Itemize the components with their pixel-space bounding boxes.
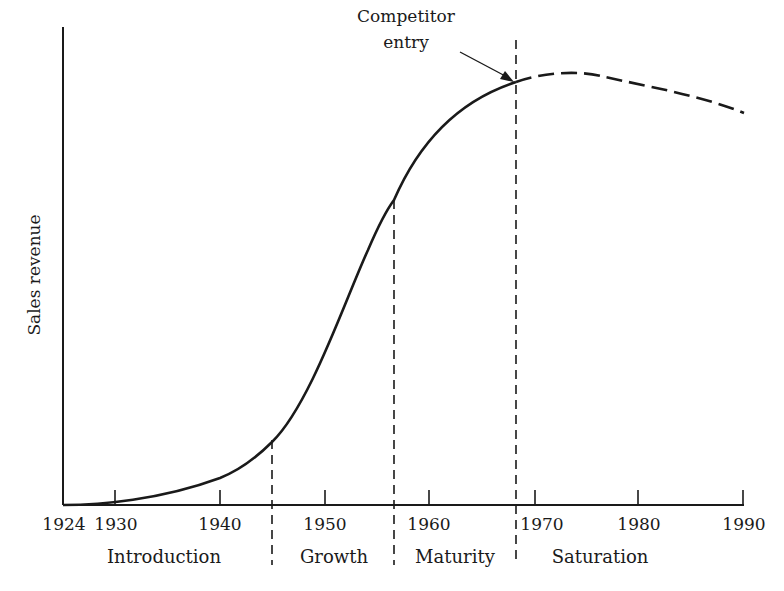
- phase-label-growth: Growth: [300, 546, 368, 567]
- x-ticks: [115, 490, 743, 505]
- product-life-cycle-chart: 1924 1930 1940 1950 1960 1970 1980 1990 …: [0, 0, 784, 591]
- arrowhead-icon: [500, 71, 514, 82]
- tick-label-1950: 1950: [303, 514, 346, 534]
- chart-canvas: 1924 1930 1940 1950 1960 1970 1980 1990 …: [0, 0, 784, 591]
- sales-curve-projected: [516, 73, 744, 113]
- tick-label-1930: 1930: [94, 514, 137, 534]
- x-tick-labels: 1924 1930 1940 1950 1960 1970 1980 1990: [42, 514, 765, 534]
- competitor-entry-annotation: Competitor entry: [357, 6, 514, 82]
- annotation-line1: Competitor: [357, 6, 456, 26]
- phase-labels: Introduction Growth Maturity Saturation: [107, 546, 649, 567]
- phase-label-maturity: Maturity: [415, 546, 496, 567]
- tick-label-1960: 1960: [407, 514, 450, 534]
- y-axis-label: Sales revenue: [24, 214, 44, 335]
- annotation-line2: entry: [383, 32, 429, 52]
- tick-label-1940: 1940: [198, 514, 241, 534]
- tick-label-1980: 1980: [617, 514, 660, 534]
- phase-label-introduction: Introduction: [107, 546, 221, 567]
- sales-curve-actual: [63, 82, 516, 505]
- phase-label-saturation: Saturation: [552, 546, 649, 567]
- tick-label-1924: 1924: [42, 514, 85, 534]
- tick-label-1990: 1990: [722, 514, 765, 534]
- tick-label-1970: 1970: [520, 514, 563, 534]
- phase-boundaries: [272, 40, 516, 565]
- annotation-arrow-shaft: [460, 52, 509, 78]
